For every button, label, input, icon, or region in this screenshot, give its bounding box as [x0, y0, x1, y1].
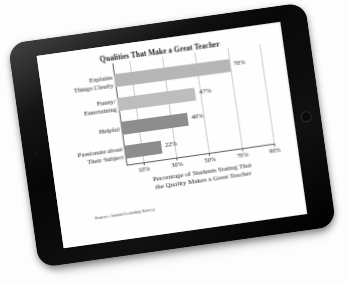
bar[interactable]: [120, 113, 188, 135]
source-note: Source: Avanta Learning Survey: [94, 207, 155, 221]
x-tick-label: 90%: [269, 146, 281, 154]
bar-value-label: 70%: [233, 58, 246, 66]
x-tick-label: 70%: [236, 150, 248, 159]
x-tick-label: 50%: [204, 155, 216, 164]
bar-value-label: 40%: [191, 112, 204, 121]
tablet-screen[interactable]: Qualities That Make a Great Teacher 10%3…: [37, 22, 308, 248]
front-camera-icon: [34, 152, 37, 155]
x-tick-label: 10%: [138, 165, 150, 174]
x-tick-label: 30%: [171, 160, 183, 169]
category-label: Passionate aboutTheir Subject: [37, 146, 124, 173]
category-label-line: Helpful: [37, 125, 120, 144]
bar-value-label: 22%: [164, 139, 177, 148]
category-label: ExplainsThings Clearly: [37, 74, 114, 100]
plot-area: 10%30%50%70%90%70%ExplainsThings Clearly…: [113, 50, 274, 165]
bar-value-label: 47%: [199, 86, 212, 94]
tablet-device: Qualities That Make a Great Teacher 10%3…: [8, 2, 337, 268]
category-label: Helpful: [37, 125, 120, 144]
home-button-icon[interactable]: [300, 110, 312, 122]
bar[interactable]: [124, 141, 162, 159]
screenshot-scene: Qualities That Make a Great Teacher 10%3…: [0, 0, 346, 284]
chart-figure: Qualities That Make a Great Teacher 10%3…: [37, 24, 306, 248]
category-label: Funny/Entertaining: [37, 98, 117, 125]
